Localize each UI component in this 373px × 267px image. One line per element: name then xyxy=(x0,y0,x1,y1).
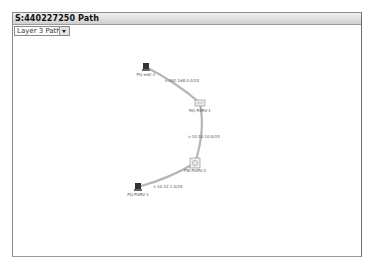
link-label: s-10.10.10.0/24 xyxy=(188,134,220,139)
node-label: FW-RSRV-2 xyxy=(184,168,206,173)
computer-icon xyxy=(134,183,142,191)
link[interactable]: s-10.32.1.0/24 xyxy=(138,163,195,189)
link-label: s-192.168.0.0/24 xyxy=(165,78,200,83)
firewall-icon xyxy=(190,158,200,168)
router-icon xyxy=(195,100,205,106)
topology-canvas[interactable]: s-192.168.0.0/24s-10.10.10.0/24s-10.32.1… xyxy=(0,0,373,267)
node-label: PQ-RSRV-1 xyxy=(127,192,149,197)
node-firewall[interactable]: FW-RSRV-2 xyxy=(184,158,206,173)
computer-icon xyxy=(142,63,150,71)
link-label: s-10.32.1.0/24 xyxy=(153,184,183,189)
node-label: RQ-RSRV-1 xyxy=(189,108,211,113)
node-label: PQ-edit-1 xyxy=(137,72,156,77)
